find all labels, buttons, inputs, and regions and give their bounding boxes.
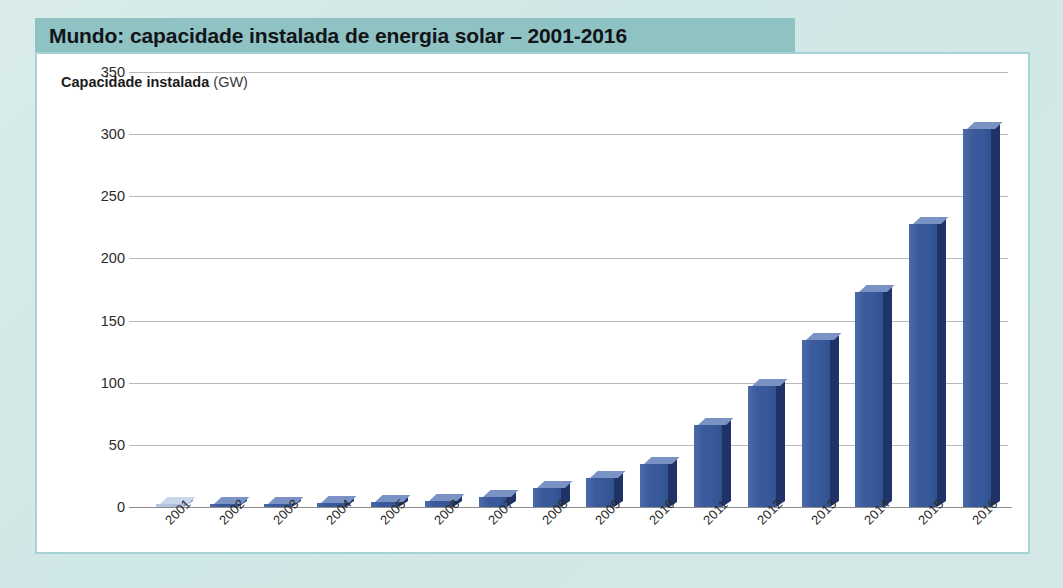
bar-2010 [640,72,668,507]
y-axis-tick-label: 100 [101,375,125,391]
y-axis-tick-label: 200 [101,250,125,266]
bar-2015 [909,72,937,507]
bar-side-face [937,218,946,507]
bar-side-face [830,334,839,507]
bar-2002 [210,72,238,507]
chart-title-bar: Mundo: capacidade instalada de energia s… [35,18,795,54]
chart-panel: Capacidade instalada (GW) 05010015020025… [35,52,1030,554]
y-axis-tick-label: 300 [101,126,125,142]
y-axis-tick-label: 250 [101,188,125,204]
bar-2013 [802,72,830,507]
y-axis-tick-label: 350 [101,64,125,80]
bar-2005 [371,72,399,507]
bar-2012 [748,72,776,507]
bar-2006 [425,72,453,507]
bar-2009 [586,72,614,507]
bar-front-face [802,340,830,507]
bar-side-face [776,380,785,507]
x-axis-ticks: 2001200220032004200520062007200820092010… [143,507,1004,567]
bar-front-face [963,129,991,507]
bar-front-face [694,425,722,507]
y-axis-tick-label: 50 [109,437,125,453]
bar-2011 [694,72,722,507]
bar-2003 [264,72,292,507]
bar-front-face [855,292,883,507]
y-axis-tick-label: 0 [117,499,125,515]
chart-figure: Mundo: capacidade instalada de energia s… [0,0,1063,588]
bar-side-face [722,419,731,507]
bar-2001 [156,72,184,507]
bar-front-face [909,224,937,507]
bar-series [143,72,1004,507]
bar-2007 [479,72,507,507]
bar-2008 [533,72,561,507]
bar-2014 [855,72,883,507]
y-axis-tick-label: 150 [101,313,125,329]
bar-2004 [317,72,345,507]
bar-side-face [991,123,1000,507]
plot-area: 050100150200250300350 200120022003200420… [107,72,1012,507]
bar-2016 [963,72,991,507]
chart-title: Mundo: capacidade instalada de energia s… [49,24,627,48]
bar-front-face [748,386,776,507]
bar-side-face [883,286,892,507]
